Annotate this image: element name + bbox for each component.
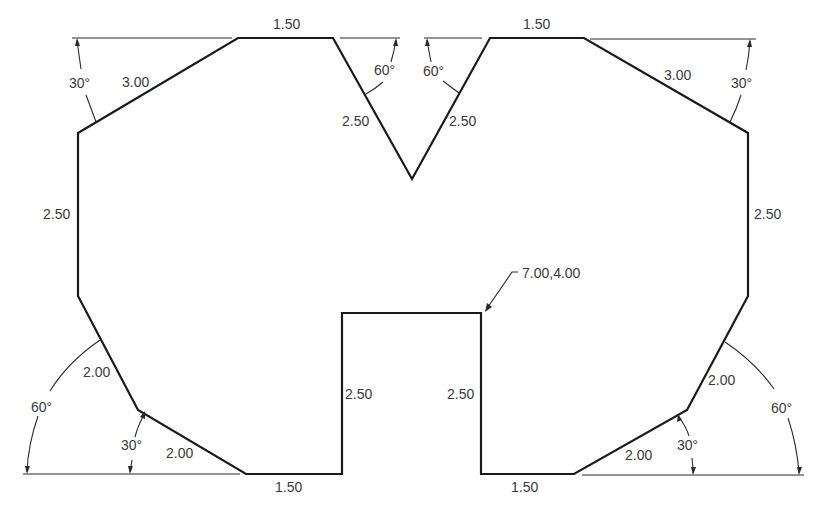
top-right-angle-arrowhead	[747, 39, 752, 47]
lower-right-30-arrowhead-bottom	[691, 467, 696, 475]
dim-top-right-chamfer-length: 3.00	[664, 67, 691, 83]
lower-right-60-arrowhead	[797, 467, 802, 475]
lower-left-60-arrowhead	[25, 466, 30, 474]
dim-lower-left-lower-chamfer-length: 2.00	[166, 445, 193, 461]
dim-lower-left-upper-chamfer-angle: 60°	[31, 399, 52, 415]
dim-lower-right-lower-chamfer-length: 2.00	[625, 447, 652, 463]
dim-notch-right-height: 2.50	[447, 386, 474, 402]
dim-v-left-angle: 60°	[374, 62, 395, 78]
dim-notch-left-height: 2.50	[345, 386, 372, 402]
dim-lower-right-upper-chamfer-length: 2.00	[708, 372, 735, 388]
dim-left-side: 2.50	[43, 206, 70, 222]
dim-lower-left-upper-chamfer-length: 2.00	[83, 364, 110, 380]
technical-drawing: 1.50 1.50 3.00 30° 3.00 30° 60° 2.50 60°…	[0, 0, 833, 521]
dim-top-right-edge: 1.50	[523, 16, 550, 32]
v-right-angle-arrowhead	[425, 38, 430, 46]
coordinate-callout-label: 7.00,4.00	[522, 265, 581, 281]
dim-v-right-angle: 60°	[423, 63, 444, 79]
dim-bottom-right-edge: 1.50	[511, 479, 538, 495]
dim-top-left-chamfer-length: 3.00	[122, 74, 149, 90]
dim-lower-right-lower-chamfer-angle: 30°	[677, 437, 698, 453]
dim-v-right-length: 2.50	[449, 113, 476, 129]
v-left-angle-arrowhead	[393, 38, 398, 46]
dim-lower-left-lower-chamfer-angle: 30°	[121, 437, 142, 453]
dim-lower-right-upper-chamfer-angle: 60°	[771, 400, 792, 416]
top-left-angle-arrowhead	[75, 38, 80, 46]
dim-top-left-edge: 1.50	[273, 16, 300, 32]
dim-v-left-length: 2.50	[342, 113, 369, 129]
dim-top-left-chamfer-angle: 30°	[69, 75, 90, 91]
dim-top-right-chamfer-angle: 30°	[731, 75, 752, 91]
coordinate-callout-leader	[488, 272, 518, 307]
dim-right-side: 2.50	[754, 206, 781, 222]
lower-left-30-arrowhead-bottom	[128, 466, 133, 474]
part-outline	[78, 38, 748, 474]
coordinate-callout-arrowhead	[485, 303, 492, 312]
dim-bottom-left-edge: 1.50	[275, 479, 302, 495]
